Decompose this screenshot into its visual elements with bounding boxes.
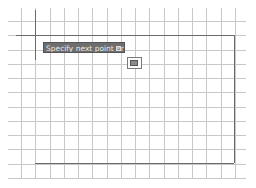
prompt-text: Specify next point or (46, 44, 124, 53)
expand-options-icon[interactable] (116, 46, 121, 51)
drawing-canvas[interactable] (0, 0, 256, 188)
command-prompt-tooltip: Specify next point or (43, 42, 125, 53)
pickbox-cursor-icon (127, 57, 142, 69)
limits-boundary (16, 10, 235, 164)
pickbox-inner (130, 60, 138, 66)
